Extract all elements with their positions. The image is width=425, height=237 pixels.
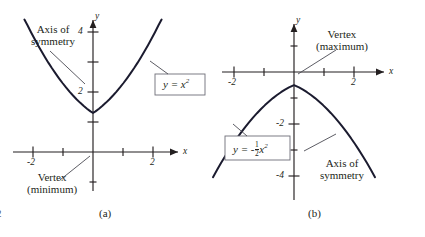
equation-b-sign: - (251, 143, 255, 155)
callout-vertex-a-line1: Vertex (38, 171, 67, 183)
caption-b: (b) (308, 208, 321, 219)
callout-vertex-a: Vertex (minimum) (27, 172, 77, 195)
x-tick-label-2-b: 2 (351, 78, 356, 88)
panel-a: -2 2 2 4 x y Axis of symmetry Vertex (mi… (0, 0, 212, 237)
y-tick-label-neg4-b: -4 (276, 171, 284, 181)
leader-axis-of-symmetry-a (50, 51, 85, 84)
x-axis-a (13, 147, 178, 158)
equation-a-eq: = (171, 78, 178, 90)
caption-a: (a) (99, 208, 111, 219)
equation-label-b: y = -12x2 (233, 141, 268, 158)
callout-axis-of-symmetry-a: Axis of symmetry (31, 24, 75, 47)
y-axis-a (88, 20, 99, 191)
y-axis-label-a: y (95, 12, 99, 22)
x-axis-label-b: x (389, 67, 393, 77)
leader-equation-a (150, 61, 168, 74)
y-axis-b (289, 24, 300, 200)
y-tick-label-neg2-b: -2 (276, 119, 284, 129)
equation-a-exponent: 2 (186, 77, 190, 85)
leader-vertex-b (298, 50, 336, 74)
equation-b-exponent: 2 (264, 142, 268, 150)
x-tick-label-2-a: 2 (150, 158, 155, 168)
page-number-fragment: 2 (0, 207, 2, 219)
y-tick-label-4-a: 4 (78, 27, 83, 37)
y-axis-label-b: y (296, 16, 300, 26)
callout-vertex-b-line2: (maximum) (316, 41, 368, 52)
panel-b: -2 2 -2 -4 x y Vertex (maximum) Axis of … (212, 0, 425, 237)
callout-axis-of-symmetry-a-line2: symmetry (31, 36, 75, 47)
y-tick-label-2-a: 2 (78, 87, 83, 97)
callout-axis-of-symmetry-a-line1: Axis of (37, 23, 70, 35)
callout-vertex-b: Vertex (maximum) (316, 29, 368, 52)
equation-label-a: y = x2 (163, 78, 189, 90)
callout-vertex-b-line1: Vertex (328, 28, 357, 40)
callout-vertex-a-line2: (minimum) (27, 184, 77, 195)
figure-root: -2 2 2 4 x y Axis of symmetry Vertex (mi… (0, 0, 425, 237)
x-axis-b (222, 67, 384, 78)
x-tick-label-neg2-b: -2 (228, 78, 236, 88)
equation-b-eq: = (241, 143, 248, 155)
callout-axis-of-symmetry-b-line1: Axis of (326, 157, 359, 169)
callout-axis-of-symmetry-b-line2: symmetry (320, 170, 364, 181)
x-axis-label-a: x (183, 147, 187, 157)
leader-axis-of-symmetry-b (304, 134, 336, 151)
callout-axis-of-symmetry-b: Axis of symmetry (320, 158, 364, 181)
x-tick-label-neg2-a: -2 (27, 158, 35, 168)
